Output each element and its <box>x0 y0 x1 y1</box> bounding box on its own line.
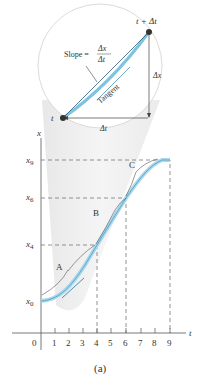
slope-label: Slope = <box>64 50 89 59</box>
region-b-label: B <box>93 208 99 218</box>
point-t <box>60 115 66 121</box>
slope-denominator: Δt <box>97 55 106 64</box>
delta-x-label: Δx <box>152 71 162 80</box>
tick-8: 8 <box>152 338 157 348</box>
y-axis-label: x <box>36 128 41 138</box>
motion-diagram: t t + Δt Slope = Δx Δt Tangent Δx Δt x t… <box>0 0 204 386</box>
region-a-label: A <box>56 262 63 272</box>
tick-4: 4 <box>94 338 99 348</box>
region-c-label: C <box>129 160 135 170</box>
label-t-plus-dt: t + Δt <box>136 16 157 26</box>
tick-0: 0 <box>32 338 37 348</box>
tick-1: 1 <box>52 338 57 348</box>
y-label-x6: x6 <box>25 192 34 204</box>
y-label-x0: x0 <box>25 296 34 308</box>
tick-9: 9 <box>167 338 172 348</box>
tick-7: 7 <box>138 338 143 348</box>
y-label-x9: x9 <box>25 155 34 167</box>
delta-t-label: Δt <box>99 124 108 133</box>
x-axis-label: t <box>189 328 192 338</box>
tick-6: 6 <box>123 338 128 348</box>
slope-numerator: Δx <box>97 44 107 53</box>
tick-3: 3 <box>80 338 85 348</box>
y-label-x4: x4 <box>25 239 34 251</box>
figure-caption: (a) <box>94 362 107 375</box>
point-t-plus-dt <box>146 29 152 35</box>
tick-5: 5 <box>108 338 113 348</box>
tick-2: 2 <box>66 338 71 348</box>
